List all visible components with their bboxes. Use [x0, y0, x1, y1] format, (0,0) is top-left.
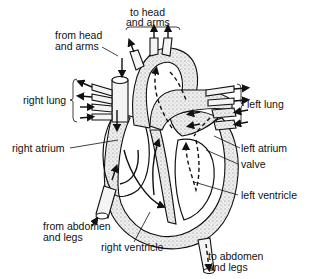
- arrow-to-head-1: [130, 42, 134, 52]
- label-from-head-line2: and arms: [55, 40, 99, 52]
- aorta-branch-1: [130, 50, 144, 70]
- label-left-ventricle: left ventricle: [241, 189, 297, 201]
- left-pulmonary-vessel-4: [214, 120, 236, 130]
- arrow-left-lung-3: [237, 110, 248, 112]
- right-lung-vessels: [92, 84, 112, 120]
- arrow-right-lung-2: [80, 96, 92, 97]
- aorta-branch-2: [150, 38, 158, 56]
- arrow-left-lung-4: [237, 122, 248, 124]
- arrow-right-lung-4: [80, 117, 91, 118]
- label-to-head-line2: and arms: [126, 16, 170, 28]
- label-to-abdomen-line2: and legs: [208, 261, 248, 273]
- label-left-atrium: left atrium: [241, 142, 287, 154]
- leader-from-head: [102, 47, 118, 56]
- label-from-abdomen-line2: and legs: [43, 231, 83, 243]
- heart-outer-wall: [104, 115, 238, 249]
- right-pulmonary-vessel-3: [92, 104, 112, 112]
- heart-diagram: to head and arms from head and arms righ…: [0, 0, 309, 279]
- right-lung-bracket: [70, 79, 77, 122]
- right-pulmonary-vessel-4: [92, 114, 112, 120]
- inferior-vena-cava-opening: [96, 213, 108, 219]
- label-left-lung: left lung: [247, 98, 284, 110]
- label-right-atrium: right atrium: [12, 142, 65, 154]
- left-pulmonary-vessel-3: [212, 108, 236, 118]
- superior-vena-cava-opening: [112, 77, 128, 84]
- left-pulmonary-vessel-2: [208, 98, 234, 106]
- label-valve: valve: [241, 158, 266, 170]
- arrow-right-lung-1: [80, 82, 92, 87]
- arrow-left-lung-2: [234, 100, 246, 101]
- septum: [150, 130, 176, 224]
- arrow-left-lung-1: [234, 88, 246, 89]
- heart-body: [103, 111, 238, 249]
- left-lung-bracket: [237, 84, 244, 126]
- superior-vena-cava: [112, 80, 128, 122]
- left-pulmonary-vessel-1: [206, 86, 234, 96]
- label-right-lung: right lung: [23, 94, 66, 106]
- label-right-ventricle: right ventricle: [101, 241, 164, 253]
- aorta-branch-3: [162, 38, 172, 56]
